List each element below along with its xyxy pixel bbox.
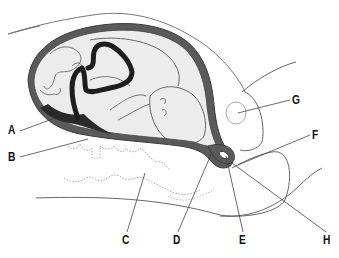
leader-line-C bbox=[127, 173, 145, 232]
rectum-dotted-outline bbox=[168, 188, 215, 200]
fetus-in-uterus-diagram bbox=[0, 0, 339, 258]
leader-line-D bbox=[178, 152, 212, 232]
label-F: F bbox=[312, 129, 318, 141]
leader-line-G bbox=[238, 100, 290, 113]
label-C: C bbox=[122, 234, 129, 246]
bladder-shape bbox=[226, 102, 246, 124]
label-D: D bbox=[173, 234, 180, 246]
pubic-skin-line bbox=[242, 62, 296, 92]
abdominal-skin-outline-upper bbox=[8, 26, 40, 34]
leader-line-A bbox=[20, 118, 55, 131]
label-B: B bbox=[8, 151, 15, 163]
leader-line-H bbox=[232, 163, 326, 232]
label-A: A bbox=[8, 124, 15, 136]
sacrum-dotted-outline bbox=[64, 175, 200, 195]
spine-dotted-outline bbox=[68, 144, 170, 170]
leader-line-B bbox=[20, 139, 88, 157]
bladder-outline bbox=[240, 92, 263, 151]
leader-line-E bbox=[226, 156, 243, 232]
label-E: E bbox=[239, 234, 246, 246]
label-H: H bbox=[323, 234, 330, 246]
label-G: G bbox=[292, 94, 300, 106]
lower-skin-line bbox=[36, 168, 322, 216]
